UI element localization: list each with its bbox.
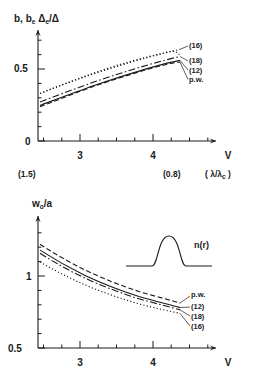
upper-curve-label-16: (16) (189, 41, 203, 50)
lower-curve-12 (40, 250, 180, 308)
lam-main: λ/λ (210, 169, 222, 179)
lower-curve-18 (40, 253, 180, 310)
upper-curve-label-18: (18) (189, 56, 203, 65)
upper-leader-18 (180, 56, 188, 61)
lower-curve-label-pw: p.w. (191, 290, 205, 299)
upper-yticklabel-0.5: 0.5 (14, 63, 28, 74)
lower-leader-12 (180, 307, 190, 308)
svg-text:b, be Δe/Δ: b, be Δe/Δ (14, 13, 59, 25)
upper-ylabel-mid: Δ (35, 13, 45, 24)
upper-xticklabel-4: 4 (150, 150, 156, 161)
upper-leader-16 (180, 46, 188, 49)
lower-xticklabel-4: 4 (150, 357, 156, 368)
lower-y-axis-label: wo/a (31, 198, 53, 210)
upper-secondary-xlabel-right: (0.8) (163, 169, 181, 179)
lower-curve-label-16: (16) (191, 322, 205, 331)
upper-plot: b, be Δe/Δ 0.5 0 3 4 V (14, 13, 232, 180)
lower-curve-label-12: (12) (191, 302, 205, 311)
upper-leader-pw (180, 62, 188, 80)
scientific-figure: b, be Δe/Δ 0.5 0 3 4 V (0, 0, 259, 383)
svg-text:wo/a: wo/a (31, 198, 53, 210)
upper-xticklabel-3: 3 (77, 150, 83, 161)
upper-curve-label-pw: p.w. (189, 75, 203, 84)
inset-label-nr: n(r) (194, 240, 209, 250)
upper-curve-16-body (40, 49, 180, 93)
lower-leader-pw (180, 296, 190, 303)
lam-close: ) (226, 169, 231, 179)
upper-y-axis-label: b, be Δe/Δ (14, 13, 59, 25)
lower-ylabel-main: w (31, 198, 40, 209)
figure-container: b, be Δe/Δ 0.5 0 3 4 V (0, 0, 259, 383)
lower-xticklabel-3: 3 (77, 357, 83, 368)
inset-refractive-index-profile: n(r) (126, 236, 212, 266)
upper-x-axis-label: V (225, 150, 232, 161)
lower-yticklabel-0.5: 0.5 (8, 343, 22, 354)
upper-secondary-x-axis-label: ( λ/λc ) (205, 169, 231, 180)
upper-ylabel-main: b, b (14, 13, 32, 24)
upper-curve-pw (40, 62, 180, 107)
lower-x-axis-label: V (225, 357, 232, 368)
upper-yticklabel-0: 0 (25, 136, 31, 147)
lower-yticklabel-1: 1 (26, 271, 32, 282)
upper-curve-18 (40, 56, 180, 102)
lower-curve-label-18: (18) (191, 312, 205, 321)
upper-curve-16 (40, 51, 180, 93)
upper-secondary-xlabel-left: (1.5) (18, 169, 36, 179)
lower-ylabel-tail: /a (44, 198, 53, 209)
lower-plot: wo/a 1 0.5 3 4 V n( (8, 198, 232, 368)
lower-curve-16 (40, 262, 180, 313)
upper-curve-label-12: (12) (189, 66, 203, 75)
upper-ylabel-tail: /Δ (49, 13, 59, 24)
